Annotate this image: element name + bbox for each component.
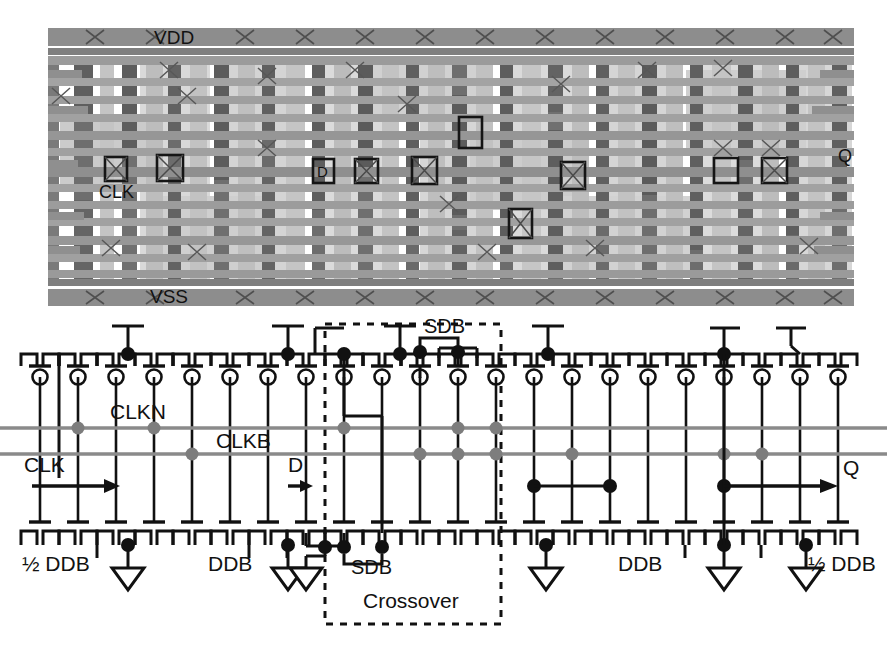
layout-label-vss: VSS xyxy=(150,286,188,307)
layout-label-vdd: VDD xyxy=(154,27,194,48)
label-clk: CLK xyxy=(24,453,65,476)
layout-label-clk: CLK xyxy=(99,182,134,202)
vss-metal-line xyxy=(48,279,854,286)
label-sdb-top: SDB xyxy=(424,318,465,337)
label-half-ddb-left: ½ DDB xyxy=(22,552,90,575)
label-clkb: CLKB xyxy=(216,429,271,452)
layout-label-q: Q xyxy=(838,146,852,166)
label-clkn: CLKN xyxy=(110,400,166,423)
label-ddb-right: DDB xyxy=(618,552,662,575)
label-half-ddb-right: ½ DDB xyxy=(808,552,876,575)
label-q: Q xyxy=(843,456,859,479)
label-d: D xyxy=(288,453,303,476)
label-crossover: Crossover xyxy=(363,589,459,612)
label-sdb-bottom: SDB xyxy=(351,556,392,578)
label-ddb-left: DDB xyxy=(208,552,252,575)
layout-label-d: D xyxy=(317,163,328,180)
schematic-panel: CLKN CLKB CLK D Q SDB SDB ½ DDB DDB Cros… xyxy=(0,318,887,652)
vdd-metal-line xyxy=(48,48,854,55)
layout-panel: VDD VSS CLK D Q xyxy=(0,0,887,320)
figure-root: VDD VSS CLK D Q xyxy=(0,0,887,652)
